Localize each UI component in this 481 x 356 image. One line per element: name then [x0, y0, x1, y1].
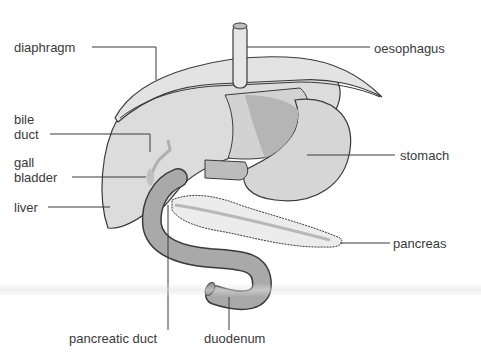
label-diaphragm: diaphragm	[14, 40, 75, 55]
label-oesophagus: oesophagus	[374, 41, 445, 56]
label-duodenum: duodenum	[204, 331, 265, 346]
oesophagus-opening	[233, 23, 247, 29]
label-liver: liver	[14, 200, 38, 215]
page-fold-shadow	[0, 283, 481, 297]
pylorus-shape	[205, 160, 248, 180]
oesophagus-shape	[233, 24, 247, 88]
label-gall-bladder-line1: gall	[14, 155, 34, 170]
label-pancreatic-duct: pancreatic duct	[69, 331, 157, 346]
label-bile-duct-line1: bile	[14, 112, 34, 127]
label-gall-bladder-line2: bladder	[14, 170, 57, 185]
label-pancreas: pancreas	[393, 236, 446, 251]
diaphragm-leader	[92, 47, 156, 80]
label-bile-duct-line2: duct	[14, 127, 39, 142]
label-stomach: stomach	[400, 148, 449, 163]
